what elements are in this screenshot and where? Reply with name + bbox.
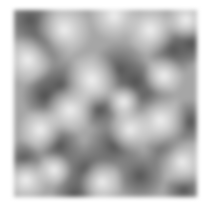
noise-texture xyxy=(14,10,197,197)
image-canvas xyxy=(0,0,208,206)
light-blob xyxy=(36,152,72,188)
light-blob xyxy=(143,55,185,97)
light-blob xyxy=(106,84,142,120)
